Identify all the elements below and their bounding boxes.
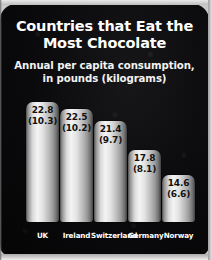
bar-value-uk: 22.8 (10.3) xyxy=(26,105,59,126)
bar-value-pounds-ireland: 22.5 xyxy=(60,112,93,123)
bar-value-pounds-switzerland: 21.4 xyxy=(94,124,127,135)
axis-label-ireland: Ireland xyxy=(60,231,93,240)
bar-value-germany: 17.8 (8.1) xyxy=(128,153,161,174)
bar-group-switzerland: 21.4 (9.7) xyxy=(94,121,127,222)
chocolate-consumption-chart-card: Countries that Eat the Most Chocolate An… xyxy=(0,0,212,260)
bar-germany: 17.8 (8.1) xyxy=(128,150,161,222)
bar-value-pounds-germany: 17.8 xyxy=(128,153,161,164)
bar-value-pounds-uk: 22.8 xyxy=(26,105,59,116)
bar-norway: 14.6 (6.6) xyxy=(162,175,195,222)
bar-group-norway: 14.6 (6.6) xyxy=(162,175,195,222)
axis-label-uk: UK xyxy=(26,231,59,240)
axis-label-norway: Norway xyxy=(162,231,195,240)
axis-label-germany: Germany xyxy=(128,231,161,240)
bar-value-kilograms-norway: (6.6) xyxy=(162,189,195,200)
bar-group-germany: 17.8 (8.1) xyxy=(128,150,161,222)
bar-value-switzerland: 21.4 (9.7) xyxy=(94,124,127,145)
axis-label-switzerland: Switzerland xyxy=(91,231,130,240)
bar-value-ireland: 22.5 (10.2) xyxy=(60,112,93,133)
bar-value-kilograms-uk: (10.3) xyxy=(26,116,59,127)
bar-group-ireland: 22.5 (10.2) xyxy=(60,109,93,222)
bar-value-norway: 14.6 (6.6) xyxy=(162,178,195,199)
bar-plot-area: 22.8 (10.3) 22.5 (10.2) 21.4 ( xyxy=(0,4,209,256)
bar-switzerland: 21.4 (9.7) xyxy=(94,121,127,222)
chart-panel: Countries that Eat the Most Chocolate An… xyxy=(0,4,209,256)
bar-value-kilograms-germany: (8.1) xyxy=(128,164,161,175)
bar-value-pounds-norway: 14.6 xyxy=(162,178,195,189)
bar-group-uk: 22.8 (10.3) xyxy=(26,102,59,222)
bar-ireland: 22.5 (10.2) xyxy=(60,109,93,222)
bar-uk: 22.8 (10.3) xyxy=(26,102,59,222)
bar-value-kilograms-switzerland: (9.7) xyxy=(94,135,127,146)
bar-value-kilograms-ireland: (10.2) xyxy=(60,123,93,134)
